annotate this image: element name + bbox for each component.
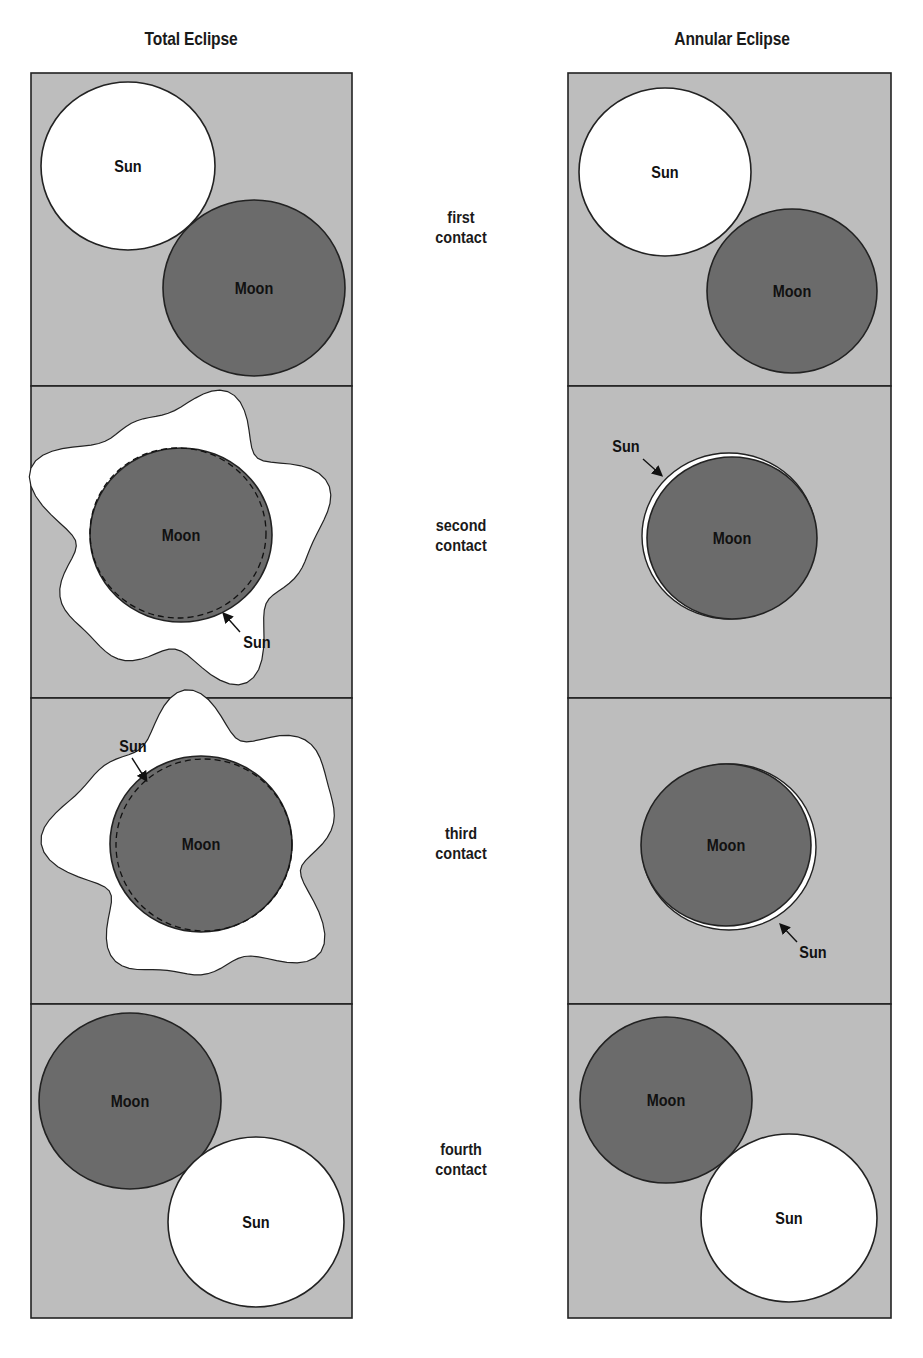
- annular-moon-label-4: Moon: [647, 1091, 685, 1109]
- annular-moon-label-1: Moon: [773, 282, 811, 300]
- annular-moon-label-2: Moon: [713, 529, 751, 547]
- total-sun-pointer-label-3: Sun: [119, 737, 146, 755]
- total-sun-label-1: Sun: [114, 157, 141, 175]
- annular-sun-pointer-label-3: Sun: [799, 943, 826, 961]
- label-third-contact: third contact: [410, 824, 512, 864]
- label-fourth-contact-line2: contact: [410, 1160, 512, 1180]
- label-fourth-contact-line1: fourth: [410, 1140, 512, 1160]
- label-first-contact-line1: first: [410, 208, 512, 228]
- label-second-contact-line2: contact: [410, 536, 512, 556]
- label-second-contact: second contact: [410, 516, 512, 556]
- annular-sun-pointer-label-2: Sun: [612, 437, 639, 455]
- total-moon-label-4: Moon: [111, 1092, 149, 1110]
- annular-sun-label-1: Sun: [651, 163, 678, 181]
- label-first-contact: first contact: [410, 208, 512, 248]
- total-moon-label-1: Moon: [235, 279, 273, 297]
- label-third-contact-line2: contact: [410, 844, 512, 864]
- label-third-contact-line1: third: [410, 824, 512, 844]
- label-fourth-contact: fourth contact: [410, 1140, 512, 1180]
- total-sun-pointer-label-2: Sun: [243, 633, 270, 651]
- total-sun-label-4: Sun: [242, 1213, 269, 1231]
- label-second-contact-line1: second: [410, 516, 512, 536]
- annular-sun-label-4: Sun: [775, 1209, 802, 1227]
- label-first-contact-line2: contact: [410, 228, 512, 248]
- annular-moon-label-3: Moon: [707, 836, 745, 854]
- total-moon-label-3: Moon: [182, 835, 220, 853]
- total-moon-label-2: Moon: [162, 526, 200, 544]
